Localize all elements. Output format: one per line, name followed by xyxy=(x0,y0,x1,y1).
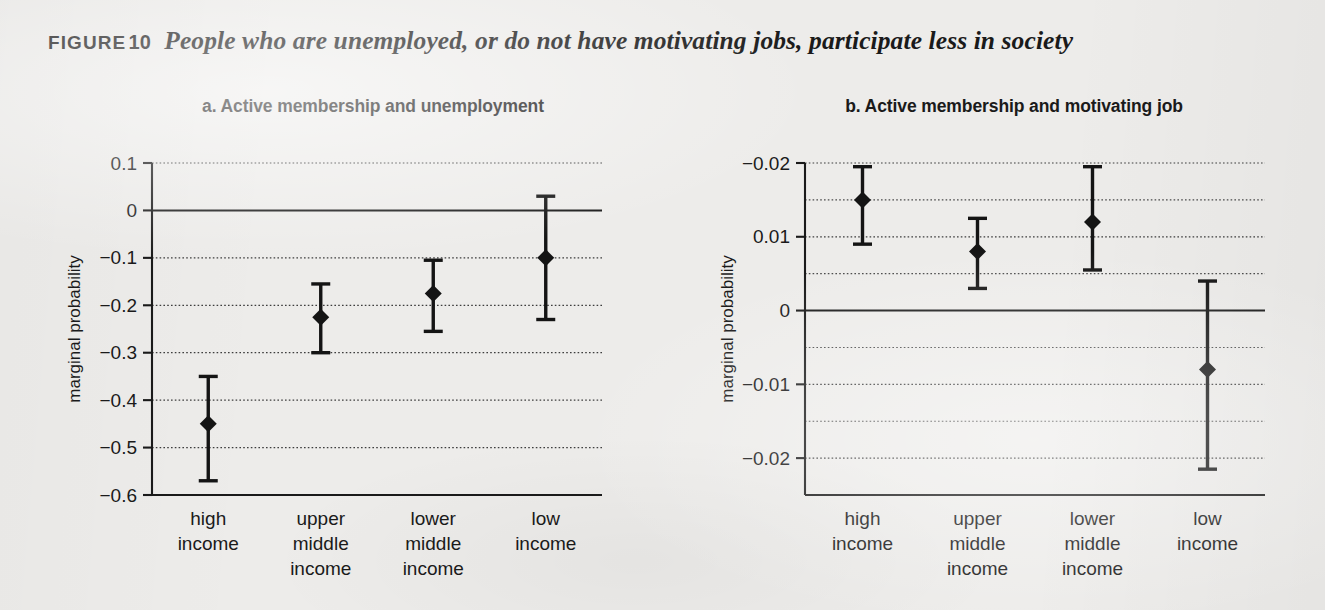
y-tick-label: −0.02 xyxy=(742,448,790,469)
x-tick-label: low xyxy=(1193,508,1222,529)
data-marker-diamond xyxy=(854,191,871,208)
data-marker-diamond xyxy=(425,285,442,302)
data-point-group xyxy=(968,218,987,288)
x-tick-label: middle xyxy=(405,533,461,554)
data-point-group xyxy=(311,284,330,353)
data-marker-diamond xyxy=(312,309,329,326)
data-marker-diamond xyxy=(969,243,986,260)
panel-b-title: b. Active membership and motivating job xyxy=(672,96,1312,117)
x-tick-label: lower xyxy=(411,508,457,529)
y-tick-label: −0.4 xyxy=(99,390,137,411)
x-tick-label: lower xyxy=(1070,508,1116,529)
x-tick-label: middle xyxy=(1065,533,1121,554)
panel-b-plot: −0.020.010−0.01−0.02marginal probability… xyxy=(672,125,1312,605)
y-axis-label: marginal probability xyxy=(718,255,737,403)
y-tick-label: 0.1 xyxy=(111,153,137,174)
data-marker-diamond xyxy=(200,415,217,432)
x-tick-label: income xyxy=(515,533,576,554)
y-tick-label: −0.1 xyxy=(99,247,137,268)
data-point-group xyxy=(536,196,555,319)
x-tick-label: high xyxy=(190,508,226,529)
data-marker-diamond xyxy=(1199,361,1216,378)
data-point-group xyxy=(424,260,443,331)
data-marker-diamond xyxy=(1084,214,1101,231)
chart-panel-b: b. Active membership and motivating job … xyxy=(672,96,1312,605)
data-point-group xyxy=(1198,281,1217,469)
y-tick-label: −0.01 xyxy=(742,374,790,395)
panel-a-title: a. Active membership and unemployment xyxy=(40,96,670,117)
y-tick-label: −0.6 xyxy=(99,485,137,506)
x-tick-label: income xyxy=(947,558,1008,579)
data-point-group xyxy=(199,376,218,480)
x-tick-label: middle xyxy=(950,533,1006,554)
x-tick-label: middle xyxy=(293,533,349,554)
y-axis-label: marginal probability xyxy=(65,255,84,403)
figure-title: FIGURE10People who are unemployed, or do… xyxy=(48,26,1073,56)
x-tick-label: income xyxy=(1062,558,1123,579)
x-tick-label: upper xyxy=(296,508,345,529)
x-tick-label: upper xyxy=(953,508,1002,529)
y-tick-label: −0.2 xyxy=(99,295,137,316)
panel-a-plot: 0.10−0.1−0.2−0.3−0.4−0.5−0.6marginal pro… xyxy=(40,125,670,605)
y-tick-label: −0.02 xyxy=(742,153,790,174)
x-tick-label: high xyxy=(845,508,881,529)
x-tick-label: income xyxy=(290,558,351,579)
x-tick-label: low xyxy=(531,508,560,529)
y-tick-label: 0.01 xyxy=(753,226,790,247)
data-marker-diamond xyxy=(537,249,554,266)
figure-tag: FIGURE xyxy=(48,32,126,53)
figure-number: 10 xyxy=(128,31,151,53)
data-point-group xyxy=(1083,167,1102,270)
y-tick-label: −0.3 xyxy=(99,342,137,363)
y-tick-label: 0 xyxy=(126,200,137,221)
x-tick-label: income xyxy=(403,558,464,579)
x-tick-label: income xyxy=(178,533,239,554)
y-tick-label: 0 xyxy=(779,300,790,321)
figure-caption: People who are unemployed, or do not hav… xyxy=(164,26,1073,55)
x-tick-label: income xyxy=(832,533,893,554)
y-tick-label: −0.5 xyxy=(99,437,137,458)
x-tick-label: income xyxy=(1177,533,1238,554)
data-point-group xyxy=(853,167,872,244)
chart-panel-a: a. Active membership and unemployment 0.… xyxy=(40,96,670,605)
